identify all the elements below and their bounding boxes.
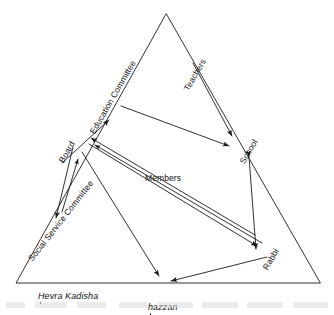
caption-text-blur	[6, 302, 328, 308]
edge-school-rabbi-double	[249, 157, 256, 249]
node-label-members[interactable]: Members	[145, 173, 181, 183]
edge-board-to-hazzan	[82, 152, 159, 276]
edge-members-to-rabbi	[89, 144, 257, 246]
edge-education-committee-to-school	[121, 106, 229, 146]
edge-members-to-board	[91, 138, 255, 235]
caption-strip	[0, 300, 334, 314]
edge-rabbi-to-hazzan	[171, 257, 267, 281]
